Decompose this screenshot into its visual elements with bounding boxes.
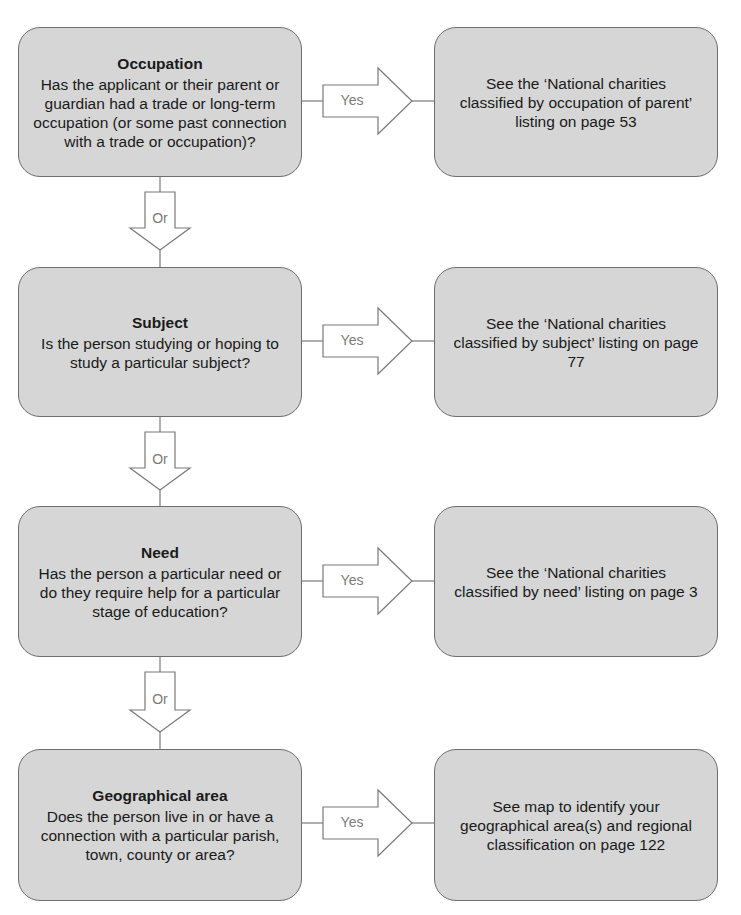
yes-label: Yes bbox=[330, 332, 374, 348]
result-box-geographical-area: See map to identify your geographical ar… bbox=[434, 749, 718, 901]
yes-label: Yes bbox=[330, 572, 374, 588]
question-title: Occupation bbox=[117, 54, 202, 73]
yes-label: Yes bbox=[330, 814, 374, 830]
result-box-subject: See the ‘National charities classified b… bbox=[434, 267, 718, 417]
question-box-occupation: Occupation Has the applicant or their pa… bbox=[18, 27, 302, 177]
result-text: See the ‘National charities classified b… bbox=[447, 563, 705, 601]
question-text: Is the person studying or hoping to stud… bbox=[31, 334, 289, 372]
question-box-subject: Subject Is the person studying or hoping… bbox=[18, 267, 302, 417]
question-title: Subject bbox=[132, 313, 188, 332]
question-text: Has the applicant or their parent or gua… bbox=[31, 75, 289, 151]
yes-label: Yes bbox=[330, 92, 374, 108]
result-box-occupation: See the ‘National charities classified b… bbox=[434, 27, 718, 177]
result-text: See map to identify your geographical ar… bbox=[447, 797, 705, 854]
result-text: See the ‘National charities classified b… bbox=[447, 74, 705, 131]
or-label: Or bbox=[145, 210, 175, 226]
question-box-geographical-area: Geographical area Does the person live i… bbox=[18, 749, 302, 901]
question-title: Geographical area bbox=[92, 786, 227, 805]
result-text: See the ‘National charities classified b… bbox=[447, 314, 705, 371]
or-label: Or bbox=[145, 451, 175, 467]
question-text: Has the person a particular need or do t… bbox=[31, 564, 289, 621]
result-box-need: See the ‘National charities classified b… bbox=[434, 506, 718, 657]
question-title: Need bbox=[141, 543, 179, 562]
or-label: Or bbox=[145, 691, 175, 707]
question-text: Does the person live in or have a connec… bbox=[31, 807, 289, 864]
question-box-need: Need Has the person a particular need or… bbox=[18, 506, 302, 657]
